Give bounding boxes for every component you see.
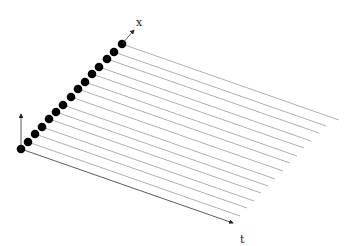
t-axis-line bbox=[21, 149, 233, 223]
particle-dot bbox=[31, 130, 40, 139]
particle-dot bbox=[45, 115, 54, 124]
particle-dot bbox=[74, 85, 83, 94]
worldline bbox=[85, 82, 297, 156]
worldline bbox=[92, 74, 304, 148]
x-axis-label: x bbox=[136, 16, 143, 29]
worldline bbox=[114, 52, 326, 126]
particle-dot bbox=[88, 70, 97, 79]
worldline bbox=[107, 59, 319, 133]
worldline bbox=[56, 112, 268, 186]
worldline bbox=[78, 89, 290, 163]
particle-dot bbox=[67, 93, 76, 102]
x-axis-arrow bbox=[122, 30, 134, 44]
particle-dot bbox=[103, 55, 112, 64]
worldline bbox=[63, 105, 275, 179]
worldline-diagram: x t bbox=[0, 0, 357, 246]
particle-dot bbox=[95, 63, 104, 72]
worldline bbox=[42, 127, 254, 201]
particle-dot bbox=[38, 123, 47, 132]
worldline bbox=[35, 134, 247, 208]
particle-dots bbox=[17, 40, 127, 154]
worldlines bbox=[21, 44, 339, 223]
particle-dot bbox=[59, 101, 68, 110]
particle-dot bbox=[24, 138, 33, 147]
t-axis-label: t bbox=[240, 233, 245, 246]
worldline bbox=[99, 67, 311, 141]
worldline bbox=[49, 119, 261, 193]
worldline bbox=[28, 142, 240, 216]
worldline bbox=[71, 97, 283, 171]
worldline bbox=[122, 44, 339, 120]
particle-dot bbox=[81, 78, 90, 87]
particle-dot bbox=[52, 108, 61, 117]
particle-dot bbox=[110, 48, 119, 57]
